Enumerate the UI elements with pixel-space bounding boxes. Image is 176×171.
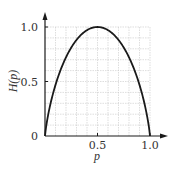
- y-tick-labels: 00.51.0: [21, 21, 49, 143]
- x-axis-arrow-icon: [160, 134, 168, 139]
- x-tick-label: 1.0: [141, 139, 159, 152]
- grid-lines: [45, 27, 150, 136]
- y-axis-arrow-icon: [43, 12, 48, 20]
- y-tick-label: 1.0: [21, 21, 39, 34]
- entropy-chart: 00.51.0 0.51.0 p H(p): [0, 0, 176, 171]
- y-axis-label: H(p): [6, 70, 20, 94]
- x-axis-label: p: [93, 149, 100, 163]
- axes: [43, 12, 169, 139]
- y-tick-label: 0.5: [21, 76, 39, 89]
- y-tick-label: 0: [31, 130, 38, 143]
